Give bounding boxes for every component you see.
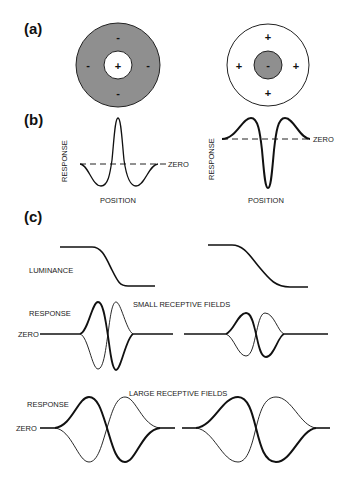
- on-center-response-profile: ZERO RESPONSE POSITION: [60, 118, 189, 205]
- surround-minus-sign: -: [116, 87, 120, 99]
- surround-plus-sign: +: [293, 60, 299, 72]
- surround-plus-sign: +: [265, 87, 271, 99]
- response-label: RESPONSE: [29, 309, 71, 318]
- on-center-receptive-field: + - - - -: [76, 23, 160, 107]
- zero-label: ZERO: [313, 135, 334, 144]
- off-center-response-profile: ZERO RESPONSE POSITION: [207, 118, 334, 205]
- blurred-luminance-edge: [208, 245, 308, 287]
- small-receptive-fields-title: SMALL RECEPTIVE FIELDS: [133, 300, 230, 309]
- zero-label: ZERO: [18, 330, 39, 339]
- position-axis-label: POSITION: [100, 196, 136, 205]
- response-axis-label: RESPONSE: [207, 138, 216, 180]
- surround-minus-sign: -: [86, 59, 90, 71]
- panel-b-label: (b): [24, 111, 43, 128]
- response-axis-label: RESPONSE: [60, 140, 69, 182]
- center-minus-sign: -: [266, 59, 270, 71]
- off-center-receptive-field: - + + + +: [227, 24, 309, 106]
- luminance-label: LUMINANCE: [29, 266, 73, 275]
- zero-label: ZERO: [16, 424, 37, 433]
- surround-minus-sign: -: [146, 59, 150, 71]
- surround-plus-sign: +: [236, 60, 242, 72]
- position-axis-label: POSITION: [248, 196, 284, 205]
- receptive-field-diagram: (a) + - - - - - + + + + (b) ZERO RESPONS…: [0, 0, 356, 478]
- sharp-luminance-edge: [60, 247, 155, 286]
- panel-a-label: (a): [24, 20, 42, 37]
- surround-plus-sign: +: [265, 31, 271, 43]
- zero-label: ZERO: [168, 160, 189, 169]
- panel-c-label: (c): [24, 208, 42, 225]
- large-rf-response-blurred-edge: [182, 397, 330, 462]
- large-receptive-fields-title: LARGE RECEPTIVE FIELDS: [129, 389, 227, 398]
- small-rf-response-blurred-edge: [184, 313, 328, 357]
- surround-minus-sign: -: [116, 31, 120, 43]
- response-label: RESPONSE: [27, 400, 69, 409]
- center-plus-sign: +: [115, 60, 121, 72]
